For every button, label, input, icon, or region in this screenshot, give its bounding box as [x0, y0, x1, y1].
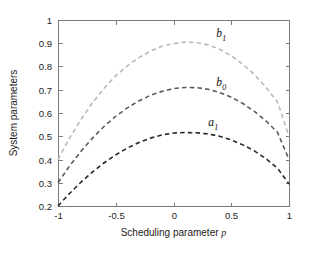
- curve-label-b_0: b0: [216, 76, 226, 92]
- data-curves: [58, 42, 289, 206]
- x-tick-label: -0.5: [108, 210, 124, 221]
- y-tick-label: 0.5: [39, 131, 52, 142]
- y-axis-title: System parameters: [8, 70, 19, 157]
- curve-label-subscript: 0: [222, 83, 226, 92]
- x-tick-label: 0.5: [225, 210, 238, 221]
- curve-label-subscript: 1: [214, 123, 218, 132]
- curve-a_1: [58, 133, 289, 206]
- x-tick-label: 1: [287, 210, 292, 221]
- line-chart: 0.20.30.40.50.60.70.80.91-1-0.500.51Sche…: [0, 0, 314, 256]
- curve-label-subscript: 1: [222, 34, 226, 43]
- y-tick-label: 0.9: [39, 38, 52, 49]
- x-tick-label: -1: [54, 210, 62, 221]
- y-tick-label: 0.7: [39, 85, 52, 96]
- curve-b_0: [58, 87, 289, 182]
- curve-b_1: [58, 42, 289, 159]
- y-tick-label: 0.2: [39, 201, 52, 212]
- x-axis-title: Scheduling parameter p: [121, 227, 227, 238]
- y-tick-label: 0.4: [39, 155, 52, 166]
- y-tick-label: 1: [47, 15, 52, 26]
- chart-labels: 0.20.30.40.50.60.70.80.91-1-0.500.51Sche…: [8, 15, 292, 238]
- curve-label-a_1: a1: [208, 116, 218, 132]
- y-tick-label: 0.3: [39, 178, 52, 189]
- axis-frame: [59, 21, 290, 207]
- y-tick-label: 0.6: [39, 108, 52, 119]
- axes: [59, 21, 290, 207]
- x-tick-label: 0: [172, 210, 177, 221]
- curve-label-b_1: b1: [216, 27, 226, 43]
- figure-container: 0.20.30.40.50.60.70.80.91-1-0.500.51Sche…: [0, 0, 314, 256]
- y-tick-label: 0.8: [39, 61, 52, 72]
